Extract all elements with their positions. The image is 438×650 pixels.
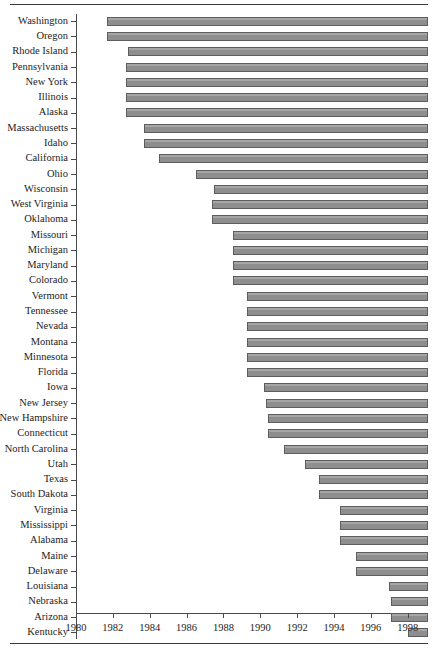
bar[interactable] — [247, 368, 428, 377]
y-axis-label: North Carolina — [0, 443, 68, 454]
bar[interactable] — [268, 414, 428, 423]
y-axis-label: Oklahoma — [0, 213, 68, 224]
y-axis-tick — [71, 159, 76, 160]
y-axis-label: Rhode Island — [0, 45, 68, 56]
bar[interactable] — [264, 383, 428, 392]
y-axis-tick — [71, 220, 76, 221]
bar[interactable] — [247, 292, 428, 301]
bar[interactable] — [126, 108, 428, 117]
y-axis-tick — [71, 495, 76, 496]
category-label: Michigan — [28, 244, 68, 255]
y-axis-label: Connecticut — [0, 427, 68, 438]
category-label: Alabama — [30, 534, 68, 545]
category-label: Minnesota — [24, 351, 68, 362]
x-axis-tick — [150, 613, 151, 618]
y-axis-label: Tennessee — [0, 305, 68, 316]
y-axis-tick — [71, 189, 76, 190]
y-axis-tick — [71, 342, 76, 343]
bar[interactable] — [212, 215, 428, 224]
y-axis-label: Montana — [0, 336, 68, 347]
y-axis-tick — [71, 266, 76, 267]
x-axis-tick — [371, 613, 372, 618]
y-axis-tick — [71, 281, 76, 282]
category-label: Alaska — [39, 106, 68, 117]
bar[interactable] — [126, 78, 428, 87]
y-axis-label: Nebraska — [0, 595, 68, 606]
bar[interactable] — [356, 567, 428, 576]
bar[interactable] — [126, 93, 428, 102]
y-axis-tick — [71, 52, 76, 53]
bar[interactable] — [340, 521, 428, 530]
y-axis-label: Michigan — [0, 244, 68, 255]
category-label: Florida — [38, 366, 68, 377]
y-axis-tick — [71, 556, 76, 557]
bar[interactable] — [196, 170, 428, 179]
bar[interactable] — [319, 490, 428, 499]
y-axis-label: Pennsylvania — [0, 61, 68, 72]
y-axis-tick — [71, 143, 76, 144]
bar[interactable] — [247, 338, 428, 347]
bar[interactable] — [107, 17, 428, 26]
bar[interactable] — [247, 353, 428, 362]
bar[interactable] — [247, 307, 428, 316]
y-axis-label: Washington — [0, 15, 68, 26]
x-axis-tick-label: 1988 — [203, 622, 243, 634]
y-axis-label: Alaska — [0, 106, 68, 117]
y-axis-tick — [71, 587, 76, 588]
y-axis-label: Delaware — [0, 565, 68, 576]
bar[interactable] — [128, 47, 428, 56]
y-axis-tick — [71, 174, 76, 175]
bar[interactable] — [319, 475, 428, 484]
bar[interactable] — [144, 139, 428, 148]
category-label: New York — [25, 76, 68, 87]
x-axis-tick — [297, 613, 298, 618]
bar[interactable] — [284, 445, 428, 454]
bar[interactable] — [266, 399, 428, 408]
bar[interactable] — [247, 322, 428, 331]
bar[interactable] — [233, 276, 428, 285]
x-axis-tick-label: 1994 — [314, 622, 354, 634]
bar[interactable] — [159, 154, 428, 163]
y-axis-tick — [71, 98, 76, 99]
y-axis-label: Utah — [0, 458, 68, 469]
category-label: Utah — [48, 458, 68, 469]
bar[interactable] — [389, 582, 428, 591]
category-label: Nevada — [36, 320, 68, 331]
bar[interactable] — [356, 552, 428, 561]
y-axis-label: New York — [0, 76, 68, 87]
y-axis-label: Mississippi — [0, 519, 68, 530]
category-label: Massachusetts — [7, 122, 68, 133]
bar[interactable] — [340, 506, 428, 515]
y-axis-tick — [71, 327, 76, 328]
bar[interactable] — [305, 460, 428, 469]
category-label: California — [25, 152, 68, 163]
x-axis-tick — [113, 613, 114, 618]
bar[interactable] — [233, 231, 428, 240]
category-label: West Virginia — [11, 198, 68, 209]
category-label: North Carolina — [5, 443, 68, 454]
bar[interactable] — [268, 429, 428, 438]
y-axis-label: Virginia — [0, 504, 68, 515]
x-axis-tick-label: 1992 — [277, 622, 317, 634]
y-axis-tick — [71, 113, 76, 114]
bar[interactable] — [233, 261, 428, 270]
y-axis-label: New Hampshire — [0, 412, 68, 423]
y-axis-label: Nevada — [0, 320, 68, 331]
y-axis-tick — [71, 128, 76, 129]
bar[interactable] — [233, 246, 428, 255]
x-axis-tick-label: 1980 — [56, 622, 96, 634]
bar[interactable] — [340, 536, 428, 545]
y-axis-tick — [71, 541, 76, 542]
category-label: Connecticut — [17, 427, 68, 438]
bar[interactable] — [144, 124, 428, 133]
bar[interactable] — [391, 597, 428, 606]
x-axis-tick-label: 1984 — [130, 622, 170, 634]
y-axis-tick — [71, 250, 76, 251]
bar[interactable] — [391, 613, 428, 622]
bar[interactable] — [126, 63, 428, 72]
bar[interactable] — [212, 200, 428, 209]
bar[interactable] — [214, 185, 428, 194]
x-axis-tick — [260, 613, 261, 618]
x-axis-tick — [76, 613, 77, 618]
bar[interactable] — [107, 32, 428, 41]
